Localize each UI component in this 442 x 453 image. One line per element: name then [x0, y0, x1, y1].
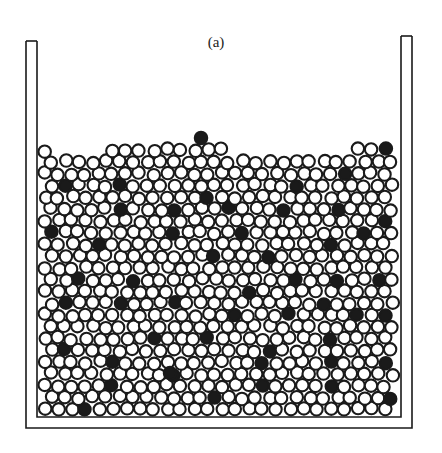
white-particle [156, 204, 168, 216]
white-particle [140, 298, 152, 310]
white-particle [201, 403, 213, 415]
white-particle [243, 191, 255, 203]
white-particle [311, 263, 323, 275]
white-particle [297, 214, 309, 226]
white-particle [352, 142, 364, 154]
black-particle [115, 203, 127, 215]
white-particle [39, 284, 51, 296]
white-particle [296, 379, 308, 391]
white-particle [39, 146, 51, 158]
white-particle [216, 214, 228, 226]
white-particle [149, 309, 161, 321]
white-particle [291, 155, 303, 167]
white-particle [79, 381, 91, 393]
white-particle [64, 356, 76, 368]
white-particle [52, 381, 64, 393]
white-particle [384, 204, 396, 216]
black-particle [255, 357, 267, 369]
white-particle [128, 298, 140, 310]
white-particle [275, 392, 287, 404]
white-particle [387, 297, 399, 309]
white-particle [67, 237, 79, 249]
white-particle [146, 286, 158, 298]
white-particle [87, 275, 99, 287]
white-particle [237, 274, 249, 286]
white-particle [282, 238, 294, 250]
white-particle [46, 299, 58, 311]
black-particle [380, 142, 392, 154]
white-particle [188, 357, 200, 369]
black-particle [236, 227, 248, 239]
black-particle [384, 393, 396, 405]
white-particle [134, 286, 146, 298]
black-particle [167, 227, 179, 239]
white-particle [365, 380, 377, 392]
white-particle [385, 321, 397, 333]
white-particle [269, 380, 281, 392]
white-particle [155, 251, 167, 263]
white-particle [250, 157, 262, 169]
white-particle [271, 287, 283, 299]
white-particle [161, 142, 173, 154]
black-particle [164, 367, 176, 379]
white-particle [352, 357, 364, 369]
white-particle [161, 309, 173, 321]
white-particle [384, 343, 396, 355]
white-particle [51, 239, 63, 251]
white-particle [161, 332, 173, 344]
white-particle [162, 167, 174, 179]
white-particle [67, 310, 79, 322]
black-particle [380, 357, 392, 369]
white-particle [93, 379, 105, 391]
black-particle [60, 297, 72, 309]
white-particle [248, 346, 260, 358]
white-particle [134, 402, 146, 414]
white-particle [228, 287, 240, 299]
white-particle [283, 379, 295, 391]
black-particle [339, 168, 351, 180]
white-particle [216, 191, 228, 203]
white-particle [379, 261, 391, 273]
white-particle [105, 168, 117, 180]
white-particle [387, 369, 399, 381]
white-particle [216, 310, 228, 322]
white-particle [201, 239, 213, 251]
white-particle [310, 168, 322, 180]
white-particle [379, 191, 391, 203]
white-particle [325, 192, 337, 204]
white-particle [330, 227, 342, 239]
white-particle [216, 261, 228, 273]
white-particle [291, 391, 303, 403]
white-particle [384, 156, 396, 168]
white-particle [270, 357, 282, 369]
white-particle [168, 251, 180, 263]
white-particle [298, 237, 310, 249]
black-particle [379, 309, 391, 321]
white-particle [303, 299, 315, 311]
white-particle [352, 167, 364, 179]
white-particle [85, 227, 97, 239]
white-particle [94, 403, 106, 415]
white-particle [169, 180, 181, 192]
white-particle [99, 181, 111, 193]
white-particle [53, 285, 65, 297]
white-particle [357, 181, 369, 193]
white-particle [202, 356, 214, 368]
white-particle [153, 321, 165, 333]
white-particle [317, 392, 329, 404]
white-particle [248, 251, 260, 263]
white-particle [182, 392, 194, 404]
white-particle [214, 287, 226, 299]
black-particle [277, 204, 289, 216]
white-particle [319, 322, 331, 334]
white-particle [52, 310, 64, 322]
panel-label: (a) [196, 34, 236, 51]
black-particle [318, 298, 330, 310]
white-particle [221, 179, 233, 191]
white-particle [195, 180, 207, 192]
white-particle [92, 309, 104, 321]
white-particle [275, 250, 287, 262]
white-particle [208, 343, 220, 355]
black-particle [168, 204, 180, 216]
white-particle [114, 346, 126, 358]
